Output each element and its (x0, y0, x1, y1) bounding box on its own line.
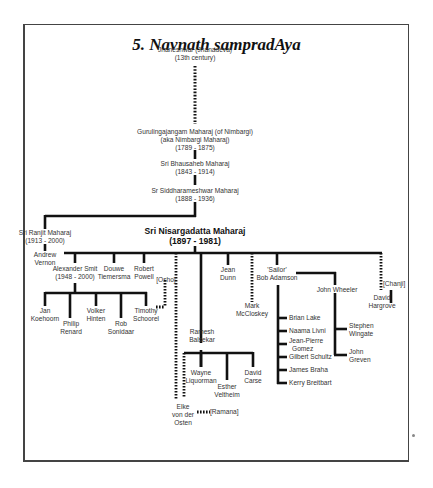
node-osho: [Osho] (155, 276, 177, 284)
node-jeanpierre: Jean-Pierre Gomez (289, 337, 323, 353)
node-stephen: Stephen Wingate (349, 322, 374, 338)
node-gurulingajangam: Gurulingajangam Maharaj (of Nimbargi) (a… (135, 128, 255, 151)
node-gilbert: Gilbert Schultz (289, 353, 332, 361)
node-kerry: Kerry Breitbart (289, 379, 332, 387)
node-douwe: Douwe Tiemersma (96, 265, 132, 281)
node-jnaneshwar: Jnaneshwar (Jnanadeva) (13th century) (145, 46, 245, 62)
node-bhausaheb: Sri Bhausaheb Maharaj (1843 - 1914) (145, 160, 245, 176)
node-nisargadatta: Sri Nisargadatta Maharaj (1897 - 1981) (140, 226, 250, 246)
node-naama: Naama Livni (289, 327, 326, 335)
node-esther: Esther Veltheim (212, 383, 242, 399)
node-bob: 'Sailor' Bob Adamson (256, 266, 298, 282)
node-brian: Brian Lake (289, 314, 321, 322)
node-james: James Braha (289, 366, 328, 374)
node-siddharameshwar: Sr Siddharameshwar Maharaj (1888 - 1936) (140, 187, 250, 203)
node-ranjit: Sri Ranjit Maharaj (1913 - 2000) (15, 229, 75, 245)
node-davidc: David Carse (240, 369, 266, 385)
node-elke: Elke von der Osten (168, 403, 198, 426)
node-johnw: John Wheeler (315, 286, 359, 294)
node-mark: Mark McCloskey (234, 302, 270, 318)
node-jean: Jean Dunn (214, 266, 242, 282)
node-timothy: Timothy Schoorel (130, 307, 162, 323)
node-johng: John Greven (349, 348, 371, 364)
node-ramesh: Ramesh Balsekar (186, 328, 218, 344)
page-mark-dot (412, 434, 415, 437)
node-davidh: David Hargrove (366, 294, 398, 310)
node-ramana: [Ramana] (210, 408, 239, 416)
node-robert: Robert Powell (130, 265, 158, 281)
node-chanji: [Chanji] (383, 280, 405, 288)
